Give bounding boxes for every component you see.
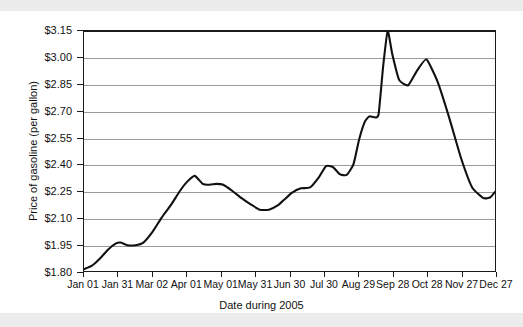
x-axis-title: Date during 2005 xyxy=(0,299,523,311)
x-tick-mark xyxy=(496,272,497,277)
scan-artifact-band-bottom xyxy=(0,313,523,327)
x-tick-label: Sep 28 xyxy=(376,278,409,290)
x-tick-label: Apr 01 xyxy=(171,278,202,290)
x-tick-label: Mar 02 xyxy=(135,278,168,290)
price-line-series xyxy=(84,31,495,271)
x-tick-mark xyxy=(358,272,359,277)
x-tick-mark xyxy=(255,272,256,277)
x-tick-label: Jan 01 xyxy=(67,278,99,290)
y-axis-tick-marks xyxy=(0,0,83,302)
x-tick-label: Jul 30 xyxy=(310,278,338,290)
y-axis-title: Price of gasoline (per gallon) xyxy=(27,41,39,261)
x-tick-mark xyxy=(83,272,84,277)
x-tick-mark xyxy=(290,272,291,277)
x-tick-label: Jan 31 xyxy=(102,278,134,290)
x-tick-mark xyxy=(324,272,325,277)
x-tick-mark xyxy=(393,272,394,277)
x-tick-mark xyxy=(427,272,428,277)
x-tick-mark xyxy=(221,272,222,277)
plot-area xyxy=(83,30,496,272)
gasoline-price-line-chart: $1.80$1.95$2.10$2.25$2.40$2.55$2.70$2.85… xyxy=(0,0,523,327)
x-tick-mark xyxy=(152,272,153,277)
x-tick-label: Oct 28 xyxy=(412,278,443,290)
x-tick-mark xyxy=(117,272,118,277)
x-tick-label: May 31 xyxy=(238,278,272,290)
x-tick-label: Aug 29 xyxy=(342,278,375,290)
x-tick-mark xyxy=(462,272,463,277)
x-axis-tick-labels: Jan 01Jan 31Mar 02Apr 01May 01May 31Jun … xyxy=(0,278,523,294)
x-tick-label: Dec 27 xyxy=(479,278,512,290)
x-tick-label: Jun 30 xyxy=(274,278,306,290)
x-tick-label: Nov 27 xyxy=(445,278,478,290)
x-tick-label: May 01 xyxy=(203,278,237,290)
x-tick-mark xyxy=(186,272,187,277)
